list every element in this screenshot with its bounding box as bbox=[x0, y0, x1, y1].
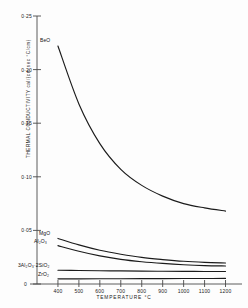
curve-label-mullite: 3Al₂O₃·2SiO₂ bbox=[18, 262, 50, 268]
y-tick-label: 0·25 bbox=[6, 13, 32, 19]
x-tick-label: 1100 bbox=[194, 288, 216, 294]
x-tick-label: 1200 bbox=[215, 288, 237, 294]
curve-MgO bbox=[58, 238, 226, 263]
x-tick-label: 600 bbox=[89, 288, 111, 294]
curve-Al2O3 bbox=[58, 246, 226, 266]
x-tick-label: 700 bbox=[110, 288, 132, 294]
y-tick-label: 0·05 bbox=[6, 227, 32, 233]
y-tick-label: 0·15 bbox=[6, 120, 32, 126]
curve-label-MgO: MgO bbox=[39, 230, 50, 236]
y-tick-label: 0·20 bbox=[6, 67, 32, 73]
y-axis-label: THERMAL CONDUCTIVITY cal/(cm sec °C/cm) bbox=[26, 19, 31, 179]
curve-label-ZrO2: ZrO₂ bbox=[38, 271, 49, 277]
curve-label-BeO: BeO bbox=[40, 37, 50, 43]
curve-label-Al2O3: Al₂O₃ bbox=[34, 238, 47, 244]
x-tick-label: 500 bbox=[68, 288, 90, 294]
data-curves bbox=[58, 46, 226, 279]
x-tick-label: 900 bbox=[152, 288, 174, 294]
curve-BeO bbox=[58, 46, 226, 211]
x-tick-label: 1000 bbox=[173, 288, 195, 294]
origin-label: 0 bbox=[24, 281, 27, 287]
x-tick-label: 800 bbox=[131, 288, 153, 294]
x-tick-marks bbox=[58, 280, 226, 287]
x-tick-label: 400 bbox=[47, 288, 69, 294]
curve-mullite bbox=[58, 270, 226, 271]
chart-figure: THERMAL CONDUCTIVITY cal/(cm sec °C/cm) … bbox=[0, 0, 248, 308]
x-axis-label: TEMPERATURE °C bbox=[0, 295, 248, 300]
y-tick-label: 0·10 bbox=[6, 174, 32, 180]
